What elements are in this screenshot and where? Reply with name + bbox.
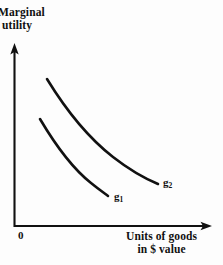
curve-g1: [40, 119, 108, 196]
curve-label-g2: g2: [163, 176, 172, 188]
curve-label-g1-sub: 1: [120, 195, 124, 204]
x-axis-label-line1: Units of goods: [126, 230, 197, 242]
x-axis-label: Units of goodsin $ value: [126, 230, 197, 256]
x-axis-label-line2: in $ value: [126, 243, 197, 256]
y-axis-label: Marginalutility: [0, 6, 45, 32]
y-axis-label-line1: Marginal: [0, 6, 45, 18]
curve-label-g1-text: g: [114, 190, 120, 202]
curve-g2: [47, 79, 158, 184]
curve-label-g2-text: g: [163, 176, 169, 188]
curve-label-g1: g1: [114, 190, 123, 202]
y-axis-label-line2: utility: [0, 19, 45, 32]
marginal-utility-chart: Marginalutility Units of goodsin $ value…: [0, 0, 223, 265]
origin-label: 0: [18, 229, 24, 241]
plot-area: [0, 0, 223, 265]
curve-label-g2-sub: 2: [169, 181, 173, 190]
